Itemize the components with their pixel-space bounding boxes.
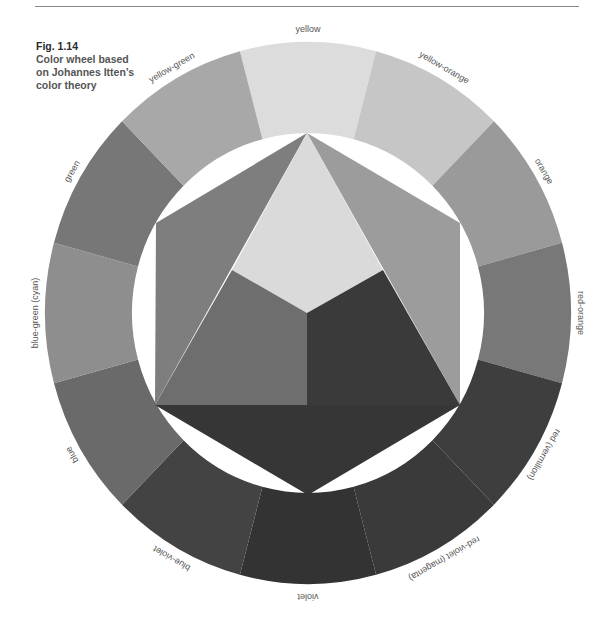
ring-segment-blue-green xyxy=(45,243,138,383)
segment-label: violet xyxy=(297,592,319,602)
segment-label: blue xyxy=(63,445,80,465)
segment-label: yellow xyxy=(295,24,321,34)
ring-segment-violet xyxy=(240,487,376,584)
center-hexagon xyxy=(155,133,460,495)
ring-segment-yellow xyxy=(240,42,376,139)
ring-segment-red-orange xyxy=(478,243,571,383)
segment-label: blue-green (cyan) xyxy=(30,278,40,349)
color-wheel: yellowyellow-orangeorangered-orangered (… xyxy=(0,0,614,627)
segment-label: red-orange xyxy=(576,291,586,335)
